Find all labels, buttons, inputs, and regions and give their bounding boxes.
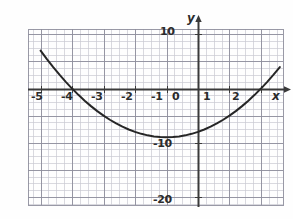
- coordinate-plane: [0, 0, 293, 219]
- x-axis-arrowhead: [284, 86, 291, 92]
- x-axis-tick-label: -5: [31, 91, 43, 102]
- graph-figure: -5-4-3-2-101210-10-20xy: [0, 0, 293, 219]
- x-axis-label: x: [272, 90, 280, 102]
- x-axis-tick-label: 2: [232, 91, 239, 102]
- x-axis-tick-label: -1: [151, 91, 163, 102]
- minor-gridlines: [28, 29, 283, 205]
- x-axis-tick-label: -3: [91, 91, 103, 102]
- y-axis-arrowhead: [195, 15, 201, 22]
- x-axis-tick-label: -4: [61, 91, 73, 102]
- y-axis-tick-label: -20: [153, 194, 172, 205]
- x-axis-tick-label: 0: [172, 91, 179, 102]
- y-axis-tick-label: 10: [160, 26, 175, 37]
- y-axis-label: y: [187, 12, 195, 24]
- x-axis-tick-label: -2: [121, 91, 133, 102]
- x-axis-tick-label: 1: [203, 91, 210, 102]
- y-axis-tick-label: -10: [153, 138, 172, 149]
